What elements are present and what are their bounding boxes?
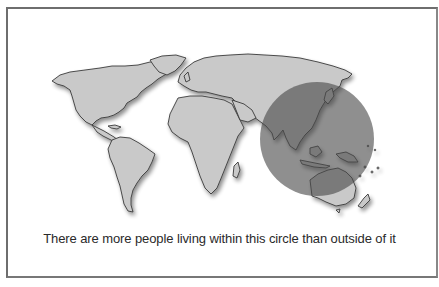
pacific-island: [374, 149, 376, 151]
cuba: [108, 125, 121, 129]
madagascar: [233, 162, 240, 178]
pacific-island: [377, 167, 379, 169]
south-america: [108, 137, 155, 212]
tasmania: [336, 209, 340, 213]
population-circle: [260, 82, 374, 196]
north-america: [52, 62, 170, 125]
pacific-island: [371, 171, 373, 173]
africa: [168, 96, 244, 194]
new-zealand: [358, 194, 370, 208]
map-caption: There are more people living within this…: [0, 231, 439, 246]
